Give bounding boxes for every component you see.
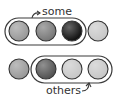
others-label: others [46, 85, 81, 96]
some-label: some [42, 6, 72, 17]
circle-highlights [10, 22, 108, 79]
